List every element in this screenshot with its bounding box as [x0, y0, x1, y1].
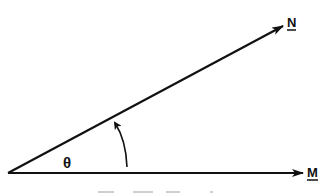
vector-n-arrow: [8, 26, 283, 173]
vector-angle-diagram: N M θ: [0, 0, 326, 193]
cropped-caption-marks: [98, 191, 213, 193]
angle-theta-label: θ: [63, 154, 71, 171]
vector-n-label: N: [287, 15, 296, 30]
vector-m-label: M: [307, 165, 318, 180]
rotation-arc-arrow: [115, 123, 127, 167]
